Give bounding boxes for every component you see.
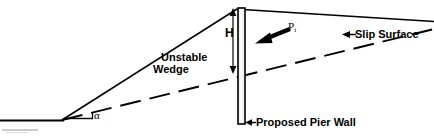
- scan-artifact-smudge-secondary: [6, 132, 28, 133]
- diagram-canvas: [0, 0, 434, 138]
- label-unstable-wedge-line2: Wedge: [153, 64, 207, 76]
- slip-surface-leader-arrow: [342, 31, 356, 38]
- height-dimension-arrow: [230, 8, 237, 74]
- label-unstable-wedge: Unstable Wedge: [161, 52, 207, 75]
- lateral-force-arrow: [255, 29, 290, 44]
- label-proposed-pier-wall: Proposed Pier Wall: [256, 117, 356, 129]
- label-angle-symbol: α: [94, 110, 100, 122]
- slip-surface-line: [62, 29, 434, 120]
- label-force-subscript: i: [294, 26, 296, 34]
- ground-line-upper-slope: [243, 10, 434, 22]
- label-unstable-wedge-line1: Unstable: [161, 51, 207, 63]
- pier-wall-leader-arrow: [245, 119, 256, 126]
- label-force-symbol: Pi: [288, 21, 296, 33]
- label-height-symbol: H: [225, 27, 234, 40]
- scan-artifact-smudge: [2, 129, 38, 131]
- label-slip-surface: Slip Surface: [355, 29, 419, 41]
- wedge-upper-boundary: [62, 9, 237, 120]
- slope-stability-diagram: Unstable Wedge Slip Surface Proposed Pie…: [0, 0, 434, 138]
